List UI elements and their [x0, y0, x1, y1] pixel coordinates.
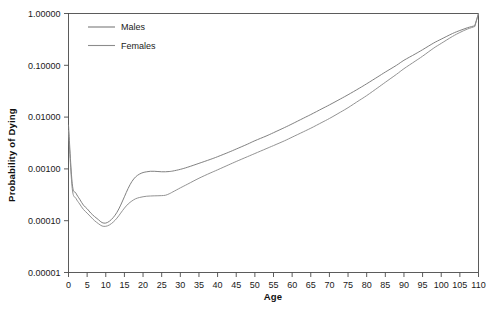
x-tick-label: 5 — [85, 280, 90, 290]
x-tick-label: 90 — [399, 280, 409, 290]
y-tick-label: 0.01000 — [28, 112, 61, 122]
y-tick-label: 1.00000 — [28, 9, 61, 19]
x-tick-label: 80 — [362, 280, 372, 290]
probability-of-dying-chart: Probability of Dying Age 051015202530354… — [0, 0, 499, 310]
plot-area: 0510152025303540455055606570758085909510… — [0, 0, 499, 310]
x-tick-label: 0 — [66, 280, 71, 290]
x-tick-label: 110 — [471, 280, 485, 290]
x-tick-label: 75 — [343, 280, 353, 290]
x-tick-label: 65 — [306, 280, 316, 290]
x-tick-label: 30 — [175, 280, 185, 290]
x-tick-label: 40 — [213, 280, 223, 290]
legend-label-males: Males — [121, 22, 146, 32]
x-tick-label: 35 — [194, 280, 204, 290]
x-tick-label: 95 — [418, 280, 428, 290]
x-tick-label: 60 — [287, 280, 297, 290]
y-tick-label: 0.00001 — [28, 268, 61, 278]
x-tick-label: 100 — [434, 280, 449, 290]
x-tick-label: 10 — [101, 280, 111, 290]
y-tick-label: 0.00010 — [28, 216, 61, 226]
x-tick-label: 55 — [268, 280, 278, 290]
y-tick-label: 0.10000 — [28, 61, 61, 71]
x-tick-label: 15 — [119, 280, 129, 290]
x-tick-label: 70 — [324, 280, 334, 290]
x-tick-label: 105 — [452, 280, 467, 290]
x-tick-label: 45 — [231, 280, 241, 290]
x-tick-label: 85 — [380, 280, 390, 290]
x-tick-label: 50 — [250, 280, 260, 290]
x-tick-label: 20 — [138, 280, 148, 290]
plot-frame — [69, 14, 479, 273]
x-tick-label: 25 — [157, 280, 167, 290]
legend-label-females: Females — [121, 41, 156, 51]
y-tick-label: 0.00100 — [28, 164, 61, 174]
